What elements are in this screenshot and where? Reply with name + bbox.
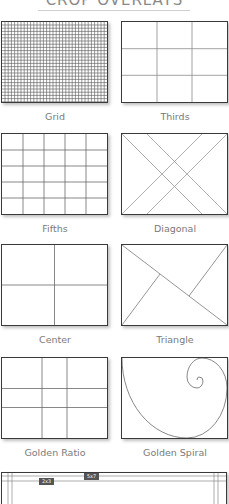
aspect-ratio-overlay-option[interactable]: 2x3 5x7 <box>1 472 227 504</box>
triangle-preview <box>121 244 228 326</box>
golden-ratio-overlay-icon <box>2 358 107 438</box>
overlay-label: Thirds <box>121 111 229 122</box>
page-title: CROP OVERLAYS <box>0 0 229 9</box>
fifths-preview <box>1 133 108 215</box>
overlay-label: Diagonal <box>121 223 229 234</box>
diagonal-preview <box>121 133 228 215</box>
overlay-label: Golden Ratio <box>1 447 109 458</box>
center-preview <box>1 244 108 326</box>
overlay-label: Center <box>1 334 109 345</box>
triangle-overlay-icon <box>122 245 227 325</box>
golden-spiral-preview <box>121 357 228 439</box>
thirds-overlay-icon <box>122 22 227 102</box>
overlay-label: Fifths <box>1 223 109 234</box>
overlay-label: Grid <box>1 111 109 122</box>
aspect-ratio-guides-icon <box>2 473 226 504</box>
grid-preview <box>1 21 108 103</box>
diagonal-overlay-icon <box>122 134 227 214</box>
thirds-preview <box>121 21 228 103</box>
aspect-tag-2x3: 2x3 <box>39 478 54 485</box>
aspect-tag-5x7: 5x7 <box>84 473 99 480</box>
overlay-label: Golden Spiral <box>121 447 229 458</box>
golden-spiral-overlay-icon <box>122 358 227 438</box>
golden-ratio-preview <box>1 357 108 439</box>
center-overlay-icon <box>2 245 107 325</box>
title-underline <box>38 10 190 11</box>
overlay-label: Triangle <box>121 334 229 345</box>
grid-overlay-icon <box>2 22 107 102</box>
fifths-overlay-icon <box>2 134 107 214</box>
